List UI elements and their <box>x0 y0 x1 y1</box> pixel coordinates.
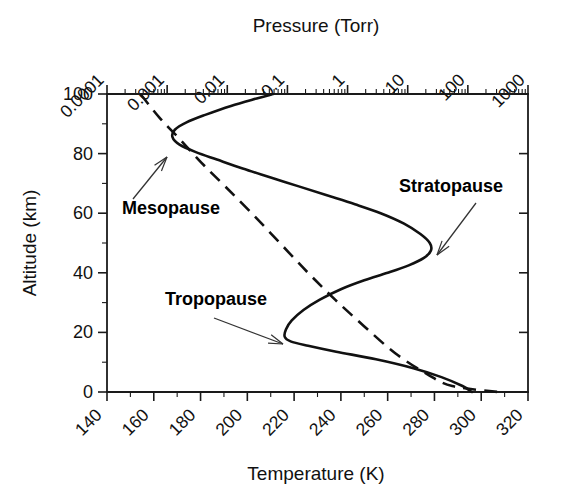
altitude-tick-label: 40 <box>73 263 93 283</box>
altitude-tick-label: 0 <box>83 382 93 402</box>
altitude-tick-label: 60 <box>73 203 93 223</box>
atmosphere-profile-chart: Pressure (Torr) 0.00010.0010.010.1110100… <box>0 0 581 499</box>
temperature-axis-title: Temperature (K) <box>247 463 384 484</box>
pressure-axis-title: Pressure (Torr) <box>253 15 380 36</box>
annotation-label-tropopause: Tropopause <box>165 289 267 309</box>
altitude-tick-label: 100 <box>63 84 93 104</box>
annotation-label-stratopause: Stratopause <box>399 176 503 196</box>
altitude-tick-label: 80 <box>73 144 93 164</box>
figure-root: Pressure (Torr) 0.00010.0010.010.1110100… <box>0 0 581 499</box>
altitude-axis-title: Altitude (km) <box>19 190 40 297</box>
altitude-tick-label: 20 <box>73 322 93 342</box>
annotation-label-mesopause: Mesopause <box>122 198 220 218</box>
